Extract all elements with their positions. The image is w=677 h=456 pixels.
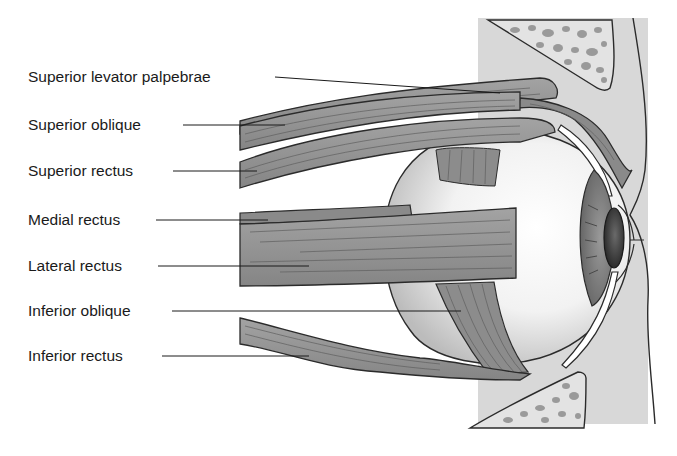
label-inferior-rectus: Inferior rectus bbox=[28, 347, 123, 365]
label-medial-rectus: Medial rectus bbox=[28, 211, 120, 229]
label-superior-oblique: Superior oblique bbox=[28, 116, 141, 134]
lens bbox=[604, 208, 624, 268]
label-superior-levator-palpebrae: Superior levator palpebrae bbox=[28, 68, 211, 86]
label-superior-rectus: Superior rectus bbox=[28, 162, 133, 180]
eye-muscle-diagram: Superior levator palpebrae Superior obli… bbox=[0, 0, 677, 456]
label-inferior-oblique: Inferior oblique bbox=[28, 302, 131, 320]
label-lateral-rectus: Lateral rectus bbox=[28, 257, 122, 275]
